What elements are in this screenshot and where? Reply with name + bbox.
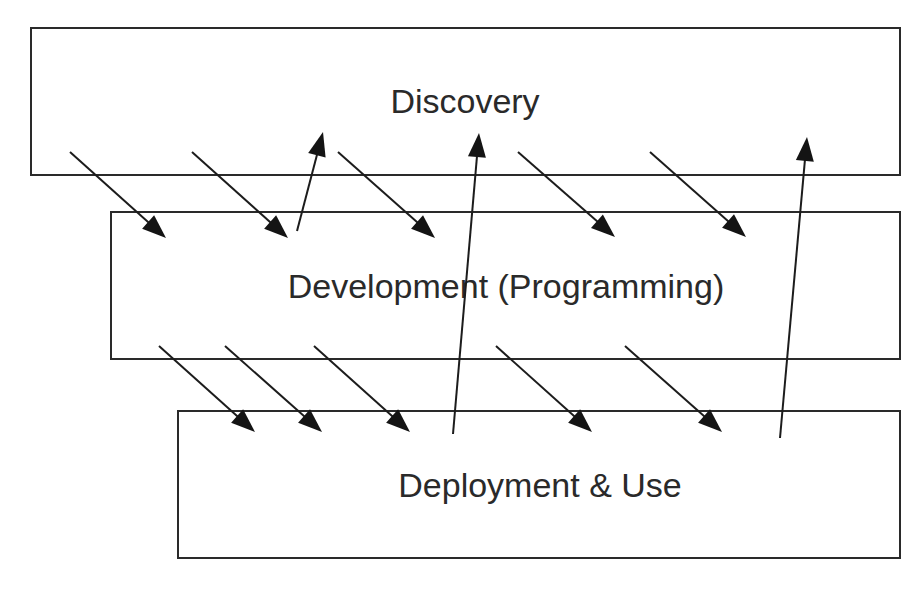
arrowhead-icon [591, 214, 615, 237]
arrow-shaft [159, 346, 240, 419]
arrowhead-icon [796, 137, 814, 162]
arrowhead-icon [308, 132, 325, 157]
layer-deployment: Deployment & Use [178, 411, 900, 558]
arrow-up-icon [297, 132, 326, 231]
arrow-shaft [625, 346, 707, 419]
layer-discovery: Discovery [31, 28, 900, 175]
arrow-shaft [780, 157, 805, 438]
arrow-shaft [192, 152, 273, 225]
arrow-shaft [225, 346, 307, 419]
layer-label-discovery: Discovery [390, 82, 539, 120]
arrowhead-icon [468, 133, 486, 158]
arrow-down-icon [518, 152, 615, 237]
arrow-down-icon [192, 152, 288, 238]
arrow-shaft [297, 151, 318, 231]
arrow-shaft [496, 346, 577, 419]
layer-development: Development (Programming) [111, 212, 900, 359]
arrow-down-icon [70, 152, 166, 238]
arrow-shaft [338, 152, 420, 225]
layer-label-development: Development (Programming) [288, 267, 725, 305]
arrow-down-icon [650, 152, 746, 237]
arrow-shaft [518, 152, 600, 224]
layer-label-deployment: Deployment & Use [398, 466, 681, 504]
arrow-down-icon [338, 152, 435, 238]
diagram-canvas: DiscoveryDevelopment (Programming)Deploy… [0, 0, 924, 589]
arrow-up-icon [780, 137, 814, 438]
arrow-shaft [314, 346, 395, 419]
